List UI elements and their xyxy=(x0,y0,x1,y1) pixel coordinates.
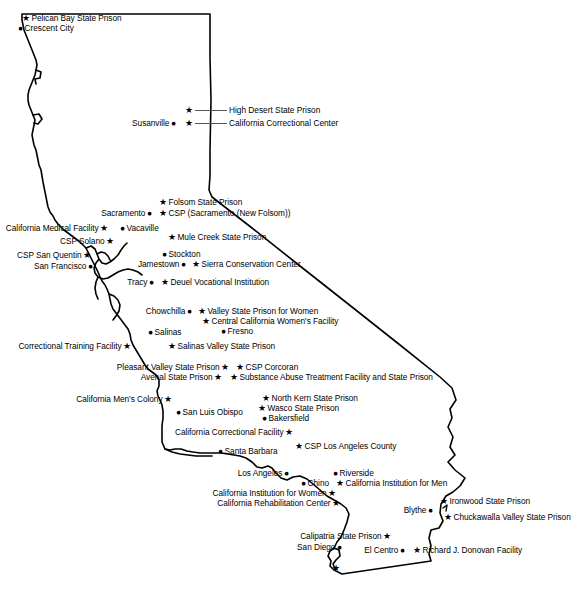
city-marker[interactable]: Jamestown● xyxy=(138,260,190,269)
city-marker[interactable]: ●Fresno xyxy=(221,327,253,336)
city-marker[interactable]: El Centro● xyxy=(364,546,409,555)
dot-icon: ● xyxy=(148,328,153,337)
prison-label: Wasco State Prison xyxy=(267,404,339,413)
prison-label: Calipatria State Prison xyxy=(300,532,381,541)
prison-marker[interactable]: Calipatria State Prison★ xyxy=(300,532,395,541)
prison-marker[interactable]: Correctional Training Facility★ xyxy=(18,342,135,351)
city-marker[interactable]: Blythe● xyxy=(404,506,437,515)
prison-marker[interactable]: ★Folsom State Prison xyxy=(159,198,242,207)
city-marker[interactable]: Susanville● xyxy=(132,119,180,128)
star-icon: ★ xyxy=(221,363,229,372)
prison-marker[interactable]: ★Deuel Vocational Institution xyxy=(161,278,269,287)
city-marker[interactable]: ●Stockton xyxy=(162,250,200,259)
leader-line xyxy=(195,110,227,111)
dot-icon: ● xyxy=(149,278,154,287)
prison-label: California Men's Colony xyxy=(76,395,162,404)
prison-marker[interactable]: ★CSP Los Angeles County xyxy=(295,442,396,451)
prison-label: Pelican Bay State Prison xyxy=(31,14,121,23)
city-marker[interactable]: ●Santa Barbara xyxy=(218,447,277,456)
prison-label: Salinas Valley State Prison xyxy=(177,342,275,351)
star-icon: ★ xyxy=(336,479,344,488)
star-icon: ★ xyxy=(202,317,210,326)
prison-marker[interactable]: California Institution for Women★ xyxy=(213,489,340,498)
star-icon: ★ xyxy=(22,14,30,23)
city-label: Riverside xyxy=(340,469,374,478)
city-marker[interactable]: ●Salinas xyxy=(148,328,181,337)
star-icon: ★ xyxy=(328,489,336,498)
dot-icon: ● xyxy=(18,24,23,33)
prison-label: Deuel Vocational Institution xyxy=(170,278,269,287)
star-icon: ★ xyxy=(106,237,114,246)
prison-marker[interactable]: ★Mule Creek State Prison xyxy=(168,233,266,242)
prison-marker[interactable]: ★Pelican Bay State Prison xyxy=(22,14,122,23)
city-label: Susanville xyxy=(132,119,169,128)
dot-icon: ● xyxy=(284,469,289,478)
city-marker[interactable]: San Francisco● xyxy=(34,262,97,271)
prison-marker[interactable]: ★CSP Corcoran xyxy=(236,363,298,372)
prison-marker[interactable]: Pleasant Valley State Prison★ xyxy=(117,363,233,372)
prison-marker[interactable]: Avenal State Prison★ xyxy=(141,373,226,382)
city-marker[interactable]: ●Chino xyxy=(301,479,329,488)
star-icon: ★ xyxy=(444,513,452,522)
star-icon: ★ xyxy=(383,532,391,541)
prison-marker[interactable]: ★CSP (Sacramento (New Folsom)) xyxy=(159,209,290,218)
city-marker[interactable]: Tracy● xyxy=(127,278,158,287)
city-label: Sacramento xyxy=(101,209,145,218)
prison-label: Mule Creek State Prison xyxy=(177,233,266,242)
city-marker[interactable]: Chowchilla● xyxy=(146,307,196,316)
prison-marker[interactable]: ★ xyxy=(331,564,344,573)
prison-label: Correctional Training Facility xyxy=(18,342,121,351)
prison-label: California Rehabilitation Center xyxy=(217,499,330,508)
city-label: Crescent City xyxy=(25,24,74,33)
city-label: San Francisco xyxy=(34,262,86,271)
dot-icon: ● xyxy=(218,447,223,456)
prison-label: California Correctional Center xyxy=(229,118,338,128)
star-icon: ★ xyxy=(83,251,91,260)
prison-marker[interactable]: ★Chuckawalla Valley State Prison xyxy=(444,513,571,522)
prison-marker[interactable]: ★Ironwood State Prison xyxy=(440,497,530,506)
prison-label: Ironwood State Prison xyxy=(449,497,530,506)
prison-marker[interactable]: ★Central California Women's Facility xyxy=(202,317,338,326)
prison-marker[interactable]: CSP San Quentin★ xyxy=(17,251,95,260)
prison-marker-leader[interactable]: ★California Correctional Center xyxy=(185,119,338,128)
city-marker[interactable]: ●Bakersfield xyxy=(262,414,309,423)
prison-marker[interactable]: CSP Solano★ xyxy=(60,237,118,246)
dot-icon: ● xyxy=(337,543,342,552)
dot-icon: ● xyxy=(147,209,152,218)
prison-marker[interactable]: California Correctional Facility★ xyxy=(175,428,297,437)
dot-icon: ● xyxy=(181,260,186,269)
prison-marker[interactable]: California Rehabilitation Center★ xyxy=(217,499,344,508)
city-marker[interactable]: Los Angeles● xyxy=(238,469,293,478)
prison-label: North Kern State Prison xyxy=(271,394,357,403)
prison-marker[interactable]: ★North Kern State Prison xyxy=(262,394,358,403)
prison-marker[interactable]: ★Valley State Prison for Women xyxy=(198,307,318,316)
city-label: Chino xyxy=(308,479,329,488)
prison-marker[interactable]: ★Substance Abuse Treatment Facility and … xyxy=(230,373,433,382)
star-icon: ★ xyxy=(185,105,193,115)
prison-marker[interactable]: California Medical Facility★ xyxy=(6,224,112,233)
prison-marker[interactable]: ★California Institution for Men xyxy=(336,479,447,488)
city-label: Blythe xyxy=(404,506,427,515)
dot-icon: ● xyxy=(171,119,176,128)
city-marker[interactable]: ●Riverside xyxy=(333,469,374,478)
prison-marker[interactable]: ★Sierra Conservation Center xyxy=(192,260,301,269)
prison-marker[interactable]: ★Salinas Valley State Prison xyxy=(168,342,275,351)
star-icon: ★ xyxy=(168,342,176,351)
prison-marker[interactable]: California Men's Colony★ xyxy=(76,395,176,404)
city-marker[interactable]: ●Crescent City xyxy=(18,24,74,33)
city-label: Jamestown xyxy=(138,260,180,269)
city-marker[interactable]: ●San Luis Obispo xyxy=(176,408,243,417)
dot-icon: ● xyxy=(120,224,125,233)
prison-marker-leader[interactable]: ★High Desert State Prison xyxy=(185,106,320,115)
city-marker[interactable]: San Diego● xyxy=(297,543,346,552)
city-marker[interactable]: ●Vacaville xyxy=(120,224,159,233)
star-icon: ★ xyxy=(258,404,266,413)
prison-marker[interactable]: ★Wasco State Prison xyxy=(258,404,339,413)
prison-label: Valley State Prison for Women xyxy=(207,307,318,316)
prison-label: CSP Los Angeles County xyxy=(304,442,396,451)
star-icon: ★ xyxy=(332,499,340,508)
prison-marker[interactable]: ★Richard J. Donovan Facility xyxy=(413,546,522,555)
city-marker[interactable]: Sacramento● xyxy=(101,209,156,218)
leader-line xyxy=(195,123,227,124)
prison-label: High Desert State Prison xyxy=(229,105,320,115)
